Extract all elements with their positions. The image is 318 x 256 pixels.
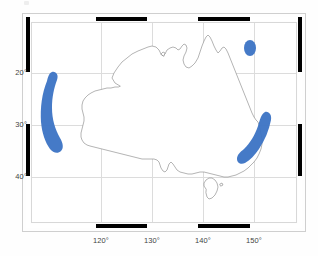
neatline-top-seg-2 xyxy=(147,17,198,21)
xtick-label-130: 130° xyxy=(139,236,165,245)
neatline-bottom-seg-0 xyxy=(26,224,96,228)
ytick-label-20: 20° xyxy=(6,68,27,77)
neatline-right-seg-0 xyxy=(298,17,302,72)
australia-coastline-svg xyxy=(32,23,298,224)
scan-artifact xyxy=(24,1,29,5)
tasmania-path xyxy=(204,178,218,199)
neatline-left-seg-3 xyxy=(26,176,30,228)
xtick-label-120: 120° xyxy=(88,236,114,245)
island-detail-path xyxy=(220,183,223,186)
neatline-bottom-seg-3 xyxy=(198,224,250,228)
australia-mainland-path xyxy=(81,35,262,177)
range-blob-west-coast xyxy=(41,72,63,153)
neatline-top-seg-4 xyxy=(250,17,302,21)
neatline-left-seg-2 xyxy=(26,124,30,176)
neatline-top-seg-0 xyxy=(26,17,96,21)
neatline-top-seg-1 xyxy=(96,17,147,21)
ytick-label-40: 40° xyxy=(6,172,27,181)
ytick-label-30: 30° xyxy=(6,120,27,129)
neatline-bottom-seg-1 xyxy=(96,224,147,228)
neatline-right-seg-3 xyxy=(298,176,302,228)
neatline-right-seg-1 xyxy=(298,72,302,124)
neatline-left-seg-1 xyxy=(26,72,30,124)
xtick-label-150: 150° xyxy=(241,236,267,245)
map-figure: 20° 30° 40° 120° 130° 140° 150° xyxy=(0,0,318,256)
neatline-bottom-seg-4 xyxy=(250,224,302,228)
neatline-bottom-seg-2 xyxy=(147,224,198,228)
map-plot-area xyxy=(31,22,297,223)
neatline-right-seg-2 xyxy=(298,124,302,176)
neatline-top-seg-3 xyxy=(198,17,250,21)
xtick-label-140: 140° xyxy=(190,236,216,245)
neatline-left-seg-0 xyxy=(26,17,30,72)
range-blob-coral-sea xyxy=(244,40,256,56)
